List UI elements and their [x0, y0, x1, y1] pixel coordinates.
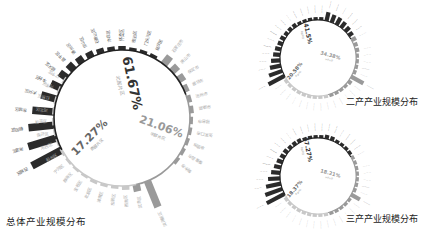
bar-label: ———: [320, 5, 324, 13]
bar: [326, 12, 328, 21]
bar-label: ———: [355, 24, 363, 31]
segment-percentage: 20.58%: [285, 61, 303, 81]
bar: [352, 38, 356, 40]
bar-label: 秦皇岛市: [187, 152, 204, 166]
bar-label: ———: [363, 54, 371, 58]
bar-label: ———: [362, 60, 370, 64]
bar-label: ———: [285, 131, 292, 139]
bar: [271, 172, 280, 173]
bar-label: ———: [256, 178, 264, 182]
bar-label: 密云区: [130, 30, 139, 43]
bar-label: 亦庄区: [104, 30, 113, 43]
bar-label: ———: [259, 169, 267, 173]
bar-label: ———: [344, 133, 351, 141]
segment-percentage: 41.5%: [303, 23, 314, 45]
bar: [280, 37, 284, 39]
bar-label: ———: [279, 136, 287, 144]
bar-label: ———: [326, 219, 331, 228]
bar-label: 滨海新区: [156, 210, 168, 227]
bar-label: ———: [347, 12, 354, 20]
bar-label: 邢台市: [198, 118, 210, 125]
bar-label: 宝坻区: [71, 179, 83, 193]
bar-label: ———: [292, 10, 299, 19]
bar-label: ———: [306, 6, 311, 15]
bar-label: 东城区: [15, 106, 28, 114]
bar: [78, 57, 82, 63]
bar-label: ———: [305, 219, 310, 228]
bar-label: 西城区: [15, 165, 29, 177]
bar: [147, 181, 157, 207]
bar-label: ———: [332, 217, 338, 226]
bar: [164, 57, 170, 65]
bar: [29, 125, 55, 128]
bar-label: 西青区: [122, 195, 130, 207]
bar-label: ———: [319, 102, 323, 110]
bar-label: 承德市: [192, 141, 206, 152]
bar-label: ———: [275, 83, 283, 90]
bar-label: 廊坊市: [191, 76, 205, 87]
bar: [277, 160, 283, 162]
chart-title-overall: 总体产业规模分布: [6, 214, 86, 228]
bar-label: ———: [298, 217, 304, 226]
bar: [268, 178, 280, 179]
bar: [351, 77, 363, 84]
bar-label: 房山区: [77, 35, 89, 49]
bar-label: ———: [326, 101, 331, 110]
bar-label: ———: [265, 154, 274, 160]
bar: [275, 48, 281, 49]
bar-label: ———: [328, 0, 333, 9]
bar-label: ———: [269, 30, 278, 37]
bar: [341, 22, 345, 28]
bar-label: 保定市: [186, 63, 200, 76]
bar-label: 海淀区: [11, 145, 25, 155]
bar-label: ———: [332, 99, 338, 108]
bar-label: ———: [359, 72, 368, 78]
bar-label: ———: [312, 102, 316, 110]
bar-label: ———: [285, 93, 292, 101]
bar-label: ———: [263, 44, 272, 49]
bar-label: 邯郸市: [198, 103, 211, 111]
bar-label: ———: [362, 178, 370, 182]
bar-label: 东丽区: [109, 193, 117, 206]
bar-label: 门头沟区: [142, 29, 154, 46]
bar: [88, 52, 91, 57]
bar-label: ———: [366, 84, 375, 91]
radial-chart-0: 西城区海淀区朝阳区东城区大兴区丰台区顺义区昌平区通州区房山区石景山区亦庄区怀柔区…: [11, 28, 213, 228]
bar-label: ———: [269, 148, 278, 155]
chart-title-secondary: 二产产业规模分布: [346, 95, 418, 108]
bar-label: ———: [319, 220, 323, 228]
bar-label: ———: [341, 7, 348, 16]
bar-label: ———: [262, 162, 271, 167]
ring-segment: [328, 157, 356, 213]
bar-label: ———: [353, 84, 361, 91]
bar-label: ———: [275, 201, 283, 208]
bar-label: ———: [339, 129, 346, 138]
bar-label: ———: [349, 138, 357, 146]
bar: [345, 27, 349, 31]
bar-label: 衡水市: [180, 162, 194, 175]
bar: [178, 76, 184, 80]
bar-label: ———: [305, 101, 310, 110]
bar-label: 朝阳区: [11, 125, 24, 133]
bar: [270, 66, 281, 68]
bar-label: ———: [299, 7, 305, 16]
bar: [68, 64, 74, 70]
bar-label: 唐山市: [179, 52, 193, 65]
bar-label: ———: [360, 157, 369, 163]
bar-label: 石景山区: [89, 28, 101, 45]
bar-label: ———: [255, 204, 264, 211]
bar-label: ———: [314, 123, 318, 131]
bar-label: ———: [314, 5, 318, 13]
bar-label: ———: [291, 127, 298, 136]
bar-label: ———: [279, 18, 287, 26]
bar-label: ———: [363, 46, 372, 51]
bar: [284, 150, 288, 153]
bar-label: 大兴区: [24, 87, 37, 97]
bar-label: ———: [274, 24, 282, 31]
bar-label: ———: [338, 97, 345, 106]
ring-segment: [328, 39, 356, 95]
bar: [269, 71, 282, 76]
bar-label: 河北区: [35, 106, 48, 114]
bar-label: ———: [299, 125, 305, 134]
bar-label: ———: [257, 75, 266, 81]
